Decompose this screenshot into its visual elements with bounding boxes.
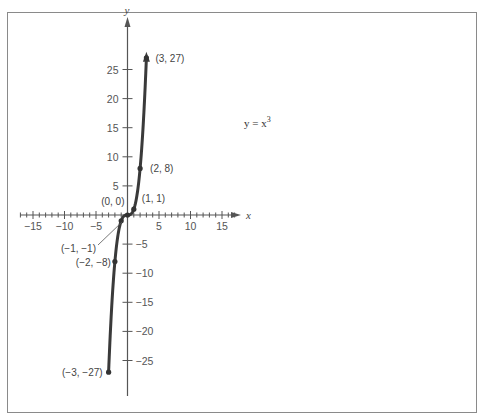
x-tick-label: −10 <box>56 220 74 232</box>
x-tick-label: 5 <box>156 220 162 232</box>
equation-label: y = x3 <box>244 115 271 129</box>
x-tick-label: 15 <box>216 220 228 232</box>
y-tick-label: 10 <box>107 151 119 163</box>
data-point-marker <box>144 55 149 60</box>
y-tick-label: 15 <box>107 122 119 134</box>
point-label: (−2, −8) <box>76 257 111 268</box>
y-tick-label: −25 <box>136 355 154 367</box>
x-axis-arrow-icon <box>231 212 241 218</box>
point-label: (1, 1) <box>142 193 165 204</box>
data-point-marker <box>138 166 143 171</box>
y-tick-label: 5 <box>113 180 119 192</box>
y-tick-label: 25 <box>107 64 119 76</box>
x-tick-label: −15 <box>24 220 42 232</box>
figure-frame <box>8 13 477 413</box>
y-axis-arrow-icon <box>125 17 131 27</box>
x-tick-label: −5 <box>90 220 102 232</box>
data-point-marker <box>106 370 111 375</box>
equation-text: y = x <box>244 117 267 129</box>
point-label: (3, 27) <box>155 53 184 64</box>
cubic-function-plot: xy−15−10−551015252015105−5−10−15−20−25 (… <box>0 0 483 417</box>
equation-exponent: 3 <box>267 115 271 124</box>
y-tick-label: −20 <box>136 325 154 337</box>
y-tick-label: −10 <box>136 267 154 279</box>
y-tick-label: −5 <box>136 238 148 250</box>
data-point-marker <box>112 259 117 264</box>
data-point-marker <box>125 212 130 217</box>
data-point-marker <box>131 207 136 212</box>
x-axis-name: x <box>245 209 251 221</box>
point-label: (0, 0) <box>101 196 124 207</box>
y-tick-label: 20 <box>107 93 119 105</box>
point-label: (−1, −1) <box>61 243 96 254</box>
point-label: (−3, −27) <box>62 367 103 378</box>
x-tick-label: 10 <box>185 220 197 232</box>
point-label: (2, 8) <box>150 163 173 174</box>
y-tick-label: −15 <box>136 296 154 308</box>
y-axis-name: y <box>124 4 130 16</box>
